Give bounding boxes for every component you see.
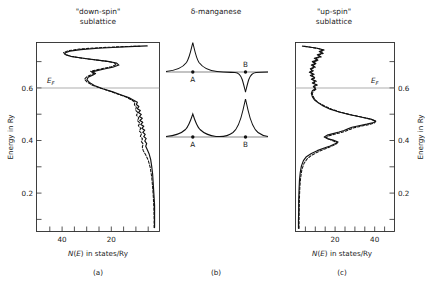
panel-c: "up-spin" sublattice 0.6 0.4 0.2 <box>296 7 426 277</box>
panel-b-lower-site-a-label: A <box>190 140 195 149</box>
panel-c-yaxis-label: Energy in Ry <box>416 114 425 160</box>
panel-c-label: (c) <box>337 268 347 277</box>
panel-a-fermi-label: EF <box>47 76 56 86</box>
panel-b: δ-manganese A B A B (b) <box>166 7 268 277</box>
panel-b-lower-site-b-label: B <box>243 140 248 149</box>
panel-a-x-ticks <box>50 227 148 232</box>
panel-c-curve-dashed <box>299 46 376 228</box>
panel-c-ytick-label-1: 0.4 <box>398 136 410 145</box>
panel-c-ytick-label-2: 0.2 <box>398 189 409 198</box>
panel-c-xtick-label-0: 20 <box>331 235 341 244</box>
panel-b-label: (b) <box>211 268 221 277</box>
panel-c-title-line2: sublattice <box>316 17 353 26</box>
panel-b-upper-site-a-dot <box>191 70 194 73</box>
panel-a-ytick-label-1: 0.4 <box>22 136 34 145</box>
panel-b-schematic-lower: A B <box>166 99 268 149</box>
figure-svg: "down-spin" sublattice 0.6 0.4 0.2 <box>0 0 432 285</box>
panel-a-ytick-label-2: 0.2 <box>22 189 33 198</box>
panel-b-upper-site-a-label: A <box>190 75 195 84</box>
figure-container: "down-spin" sublattice 0.6 0.4 0.2 <box>0 0 432 285</box>
panel-a-xtick-label-1: 20 <box>107 235 117 244</box>
panel-b-title: δ-manganese <box>191 7 242 16</box>
panel-c-curve-solid <box>298 46 375 228</box>
panel-a-curve-solid <box>65 46 155 228</box>
panel-c-xtick-label-1: 40 <box>370 235 380 244</box>
panel-a-curve-dashed <box>64 46 155 227</box>
panel-b-upper-site-b-dot <box>244 70 247 73</box>
panel-a-title-line1: "down-spin" <box>76 7 121 16</box>
panel-c-x-ticks <box>305 227 384 232</box>
panel-b-upper-site-b-label: B <box>243 60 248 69</box>
panel-a-xaxis-label: N(E) in states/Ry <box>68 249 129 258</box>
panel-b-lower-curve <box>166 99 268 137</box>
panel-b-lower-site-b-dot <box>244 135 247 138</box>
panel-a-y-ticks <box>37 62 42 220</box>
panel-c-plot-frame <box>296 43 395 232</box>
panel-a: "down-spin" sublattice 0.6 0.4 0.2 <box>6 7 160 277</box>
panel-b-upper-curve <box>166 43 268 93</box>
panel-a-xtick-label-0: 40 <box>58 235 68 244</box>
panel-c-ytick-label-0: 0.6 <box>398 84 410 93</box>
panel-c-xaxis-label: N(E) in states/Ry <box>312 249 373 258</box>
panel-c-y-ticks <box>390 62 395 220</box>
panel-c-title-line1: "up-spin" <box>317 7 351 16</box>
panel-c-fermi-label: EF <box>371 76 380 86</box>
panel-a-title-line2: sublattice <box>80 17 117 26</box>
panel-b-lower-site-a-dot <box>191 135 194 138</box>
panel-a-yaxis-label: Energy in Ry <box>6 114 15 160</box>
panel-a-ytick-label-0: 0.6 <box>22 84 34 93</box>
panel-a-label: (a) <box>93 268 103 277</box>
panel-b-schematic-upper: A B <box>166 43 268 93</box>
